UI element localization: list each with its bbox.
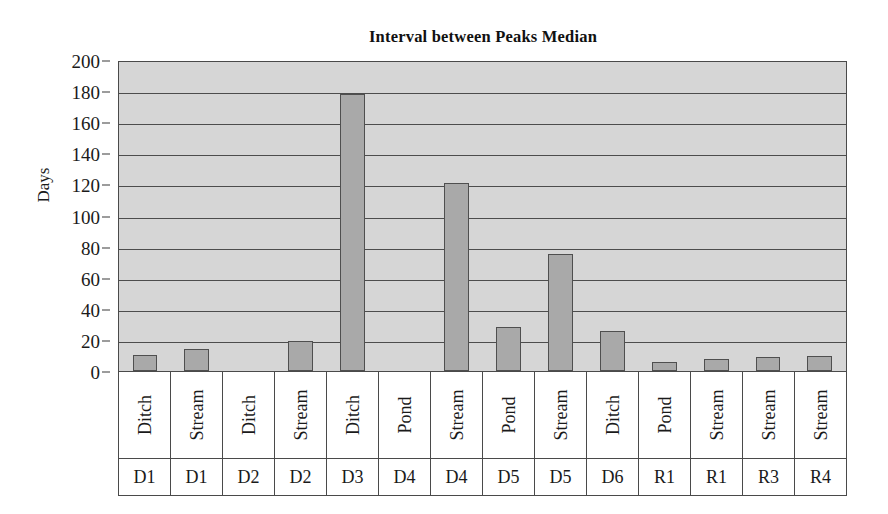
x-axis-habitat-cell: Stream <box>171 372 222 458</box>
x-axis-table-bottom-border <box>118 495 847 496</box>
x-axis-habitat-cell: Ditch <box>327 372 378 458</box>
x-axis-habitat-label: Stream <box>550 390 571 441</box>
y-tick-label: 180 <box>44 83 100 102</box>
bar-slot <box>431 62 483 371</box>
x-axis-habitat-cell: Ditch <box>587 372 638 458</box>
x-axis-label-table: DitchD1StreamD1DitchD2StreamD2DitchD3Pon… <box>118 372 847 496</box>
chart-figure: Interval between Peaks Median Days 02040… <box>0 0 888 514</box>
x-axis-column: DitchD2 <box>223 372 275 496</box>
x-axis-habitat-label: Stream <box>186 390 207 441</box>
x-axis-site-label: D5 <box>535 458 586 496</box>
x-axis-habitat-label: Pond <box>498 396 519 433</box>
bar[interactable] <box>133 355 158 371</box>
bar[interactable] <box>600 331 625 371</box>
bar-series <box>119 62 846 371</box>
y-tick-mark <box>102 154 110 155</box>
bar-slot <box>275 62 327 371</box>
x-axis-habitat-label: Stream <box>810 390 831 441</box>
x-axis-habitat-cell: Stream <box>795 372 846 458</box>
bar[interactable] <box>340 94 365 371</box>
y-tick-mark <box>102 309 110 310</box>
x-axis-site-label: D2 <box>223 458 274 496</box>
x-axis-habitat-label: Ditch <box>602 395 623 435</box>
x-axis-site-label: R3 <box>743 458 794 496</box>
bar[interactable] <box>652 362 677 371</box>
y-tick-label: 60 <box>44 269 100 288</box>
x-axis-site-label: R1 <box>639 458 690 496</box>
bar-slot <box>482 62 534 371</box>
x-axis-habitat-label: Pond <box>654 396 675 433</box>
bar[interactable] <box>807 356 832 371</box>
x-axis-column: StreamD1 <box>171 372 223 496</box>
x-axis-site-label: D4 <box>431 458 482 496</box>
x-axis-site-label: D6 <box>587 458 638 496</box>
x-axis-table-divider <box>118 458 847 459</box>
x-axis-column: PondD4 <box>379 372 431 496</box>
bar-slot <box>638 62 690 371</box>
x-axis-habitat-label: Ditch <box>134 395 155 435</box>
y-tick-label: 40 <box>44 300 100 319</box>
y-tick-label: 140 <box>44 145 100 164</box>
y-tick-label: 100 <box>44 207 100 226</box>
bar-slot <box>742 62 794 371</box>
x-axis-habitat-cell: Ditch <box>223 372 274 458</box>
y-tick-label: 20 <box>44 331 100 350</box>
x-axis-column: StreamR4 <box>795 372 846 496</box>
x-axis-habitat-cell: Stream <box>431 372 482 458</box>
y-tick-mark <box>102 61 110 62</box>
bar-slot <box>794 62 846 371</box>
x-axis-column: StreamD2 <box>275 372 327 496</box>
y-tick-label: 160 <box>44 114 100 133</box>
x-axis-habitat-label: Pond <box>394 396 415 433</box>
x-axis-habitat-cell: Pond <box>639 372 690 458</box>
y-tick-mark <box>102 185 110 186</box>
x-axis-column: DitchD3 <box>327 372 379 496</box>
y-tick-mark <box>102 216 110 217</box>
x-axis-column: DitchD1 <box>119 372 171 496</box>
x-axis-habitat-cell: Pond <box>379 372 430 458</box>
y-tick-mark <box>102 372 110 373</box>
y-tick-mark <box>102 123 110 124</box>
x-axis-habitat-cell: Ditch <box>119 372 170 458</box>
bar[interactable] <box>288 341 313 371</box>
x-axis-column: PondR1 <box>639 372 691 496</box>
y-tick-mark <box>102 92 110 93</box>
bar-slot <box>379 62 431 371</box>
x-axis-site-label: R4 <box>795 458 846 496</box>
x-axis-site-label: D5 <box>483 458 534 496</box>
y-tick-mark <box>102 278 110 279</box>
y-tick-mark <box>102 340 110 341</box>
x-axis-habitat-label: Stream <box>446 390 467 441</box>
x-axis-habitat-cell: Stream <box>275 372 326 458</box>
x-axis-habitat-label: Stream <box>290 390 311 441</box>
bar[interactable] <box>756 357 781 371</box>
x-axis-site-label: R1 <box>691 458 742 496</box>
bar-slot <box>119 62 171 371</box>
bar-slot <box>223 62 275 371</box>
y-tick-label: 120 <box>44 176 100 195</box>
bar[interactable] <box>704 359 729 371</box>
x-axis-habitat-label: Ditch <box>342 395 363 435</box>
chart-title: Interval between Peaks Median <box>118 27 848 47</box>
bar-slot <box>586 62 638 371</box>
y-axis-tick-labels: 020406080100120140160180200 <box>50 61 110 372</box>
bar[interactable] <box>496 327 521 371</box>
y-tick-label: 200 <box>44 52 100 71</box>
x-axis-site-label: D1 <box>119 458 170 496</box>
x-axis-site-label: D4 <box>379 458 430 496</box>
x-axis-habitat-cell: Stream <box>535 372 586 458</box>
y-tick-label: 0 <box>44 363 100 382</box>
bar-slot <box>327 62 379 371</box>
bar[interactable] <box>548 254 573 371</box>
bar[interactable] <box>184 349 209 371</box>
bar-slot <box>690 62 742 371</box>
y-tick-label: 80 <box>44 238 100 257</box>
x-axis-site-label: D3 <box>327 458 378 496</box>
bar[interactable] <box>444 183 469 371</box>
x-axis-habitat-cell: Pond <box>483 372 534 458</box>
x-axis-habitat-cell: Stream <box>691 372 742 458</box>
x-axis-habitat-label: Ditch <box>238 395 259 435</box>
x-axis-habitat-cell: Stream <box>743 372 794 458</box>
x-axis-column: StreamD5 <box>535 372 587 496</box>
x-axis-habitat-label: Stream <box>706 390 727 441</box>
